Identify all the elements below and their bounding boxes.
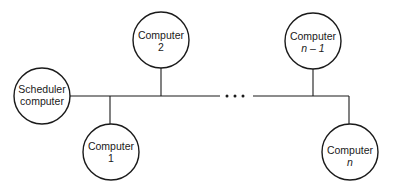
node-label-line1: Scheduler — [18, 83, 66, 95]
node-label-line1: Computer — [290, 30, 337, 42]
bus-network-diagram: Scheduler computer Computer 1 Computer 2… — [0, 0, 396, 188]
node-label-line2: n – 1 — [301, 42, 324, 54]
node-computer-n-minus-1: Computer n – 1 — [285, 13, 341, 69]
node-label-line1: Computer — [327, 144, 374, 156]
node-label-line2: computer — [20, 95, 64, 107]
node-label-line1: Computer — [88, 140, 135, 152]
node-label-line1: Computer — [138, 29, 185, 41]
node-computer-2: Computer 2 — [133, 12, 189, 68]
node-computer-n: Computer n — [322, 124, 378, 180]
node-scheduler-computer: Scheduler computer — [14, 68, 70, 124]
node-computer-1: Computer 1 — [83, 124, 139, 180]
node-label-line2: 2 — [158, 41, 164, 53]
node-label-line2: n — [347, 156, 353, 168]
node-label-line2: 1 — [108, 152, 114, 164]
ellipsis-dots — [226, 95, 245, 98]
